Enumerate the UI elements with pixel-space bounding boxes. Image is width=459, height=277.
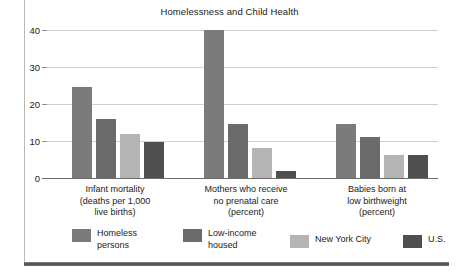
legend-swatch-new-york-city: [290, 235, 309, 248]
gridline-40: [47, 30, 438, 31]
category-label-no-prenatal-care: Mothers who receive no prenatal care (pe…: [183, 184, 309, 219]
plot-area: 40 30 20 10 0: [47, 30, 438, 178]
bar-g0-s3: [144, 142, 164, 178]
chart-title: Homelessness and Child Health: [0, 6, 459, 17]
category-label-infant-mortality: Infant mortality (deaths per 1,000 live …: [53, 184, 177, 219]
gridline-20: [47, 104, 438, 105]
legend-item-us[interactable]: U.S.: [403, 234, 446, 248]
ytick-30: [42, 67, 47, 68]
bar-g0-s1: [96, 119, 116, 178]
gridline-30: [47, 67, 438, 68]
category-label-low-birthweight: Babies born at low birthweight (percent): [317, 184, 437, 219]
chart-legend: Homeless persons Low-income housed New Y…: [47, 228, 447, 254]
legend-label-us: U.S.: [428, 234, 446, 246]
ytick-label-40: 40: [29, 25, 40, 36]
ytick-20: [42, 104, 47, 105]
legend-label-new-york-city: New York City: [315, 234, 371, 246]
legend-swatch-us: [403, 235, 422, 248]
chart-figure: Homelessness and Child Health 40 30 20 1…: [0, 0, 459, 277]
legend-label-homeless-persons: Homeless persons: [97, 228, 137, 251]
x-axis-line: [42, 178, 438, 179]
legend-swatch-low-income-housed: [183, 229, 202, 242]
ytick-label-0: 0: [35, 173, 40, 184]
bar-g1-s3: [276, 171, 296, 178]
bar-g2-s3: [408, 155, 428, 178]
legend-swatch-homeless-persons: [72, 229, 91, 242]
bar-g1-s1: [228, 124, 248, 178]
bar-g2-s1: [360, 137, 380, 178]
bar-g0-s2: [120, 134, 140, 178]
bottom-border-rule: [24, 262, 449, 266]
bar-g0-s0: [72, 87, 92, 178]
ytick-label-10: 10: [29, 136, 40, 147]
bar-g2-s0: [336, 124, 356, 178]
legend-item-new-york-city[interactable]: New York City: [290, 234, 371, 248]
ytick-label-20: 20: [29, 99, 40, 110]
left-border-rule: [24, 0, 25, 262]
ytick-40: [42, 30, 47, 31]
bar-g1-s2: [252, 148, 272, 178]
legend-item-homeless-persons[interactable]: Homeless persons: [72, 228, 137, 251]
bar-g1-s0: [204, 30, 224, 178]
ytick-10: [42, 141, 47, 142]
ytick-label-30: 30: [29, 62, 40, 73]
legend-item-low-income-housed[interactable]: Low-income housed: [183, 228, 257, 251]
bar-g2-s2: [384, 155, 404, 178]
legend-label-low-income-housed: Low-income housed: [208, 228, 257, 251]
